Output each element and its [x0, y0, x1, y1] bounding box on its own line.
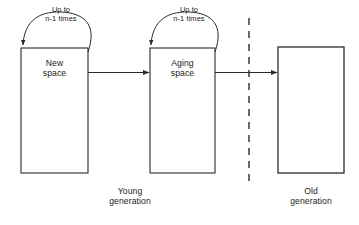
loop-label-new-space: Up to n-1 times — [33, 6, 89, 23]
region-label-old-generation: Old generation — [276, 186, 346, 206]
box-label-aging-space: Aging space — [150, 58, 215, 78]
region-label-young-generation: Young generation — [95, 186, 165, 206]
loop-label-aging-space: Up to n-1 times — [161, 6, 217, 23]
box-old-space — [278, 47, 344, 173]
box-label-new-space: New space — [21, 58, 88, 78]
diagram-canvas: New space Aging space Up to n-1 times Up… — [0, 0, 359, 225]
